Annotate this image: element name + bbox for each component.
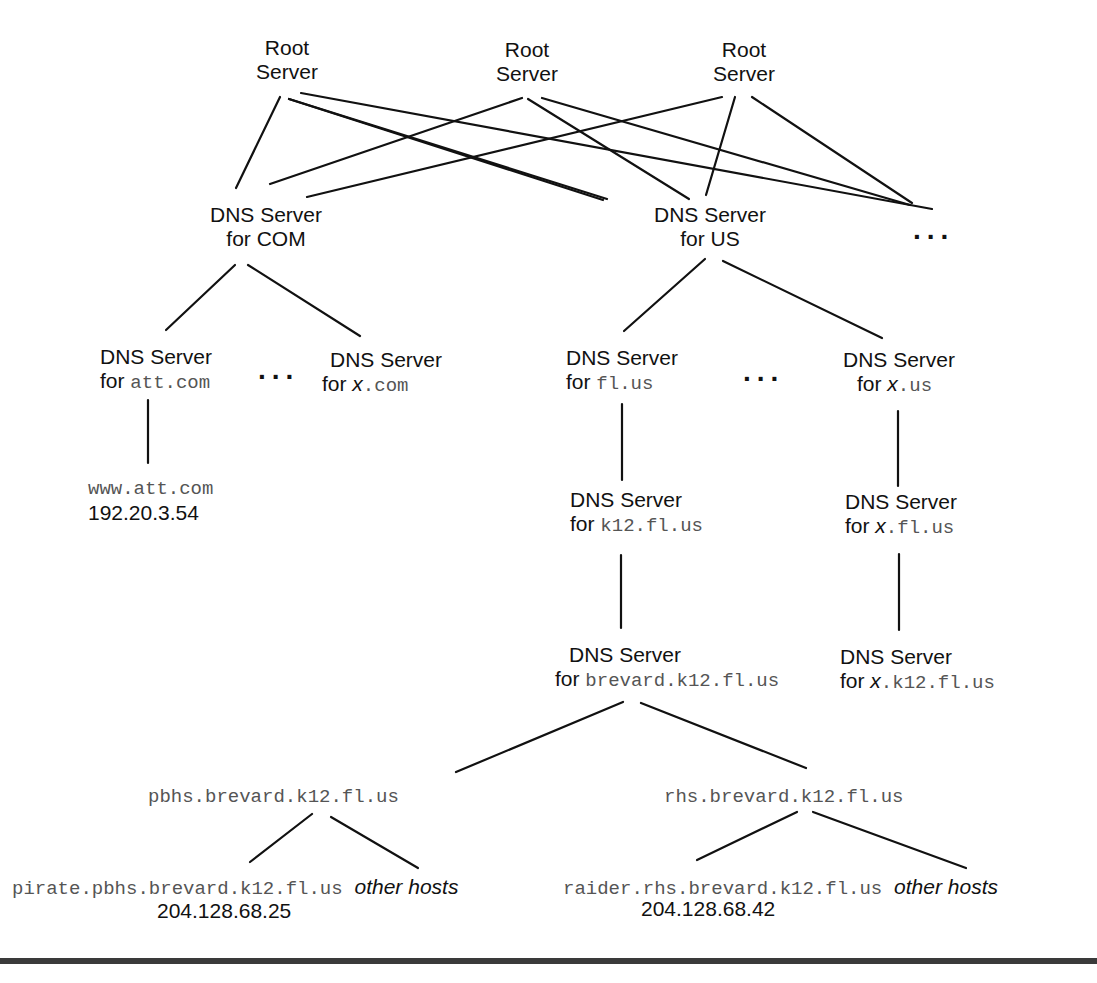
server-label: DNS Server [555,643,779,667]
variable-x: x [352,372,363,395]
for-prefix: for [322,372,352,395]
server-domain: for US [654,227,766,251]
variable-x: x [875,514,886,537]
dns-server-x-fl-us: DNS Server for x.fl.us [845,490,957,540]
domain-name: brevard.k12.fl.us [585,670,779,692]
domain-rhs: rhs.brevard.k12.fl.us [664,785,903,809]
root-server-3: Root Server [713,38,775,86]
dns-server-com: DNS Server for COM [210,203,322,251]
host-raider-ip: 204.128.68.42 [641,897,775,921]
dns-server-x-com: DNS Server for x.com [322,348,442,398]
server-label: DNS Server [840,645,995,669]
server-label: DNS Server [210,203,322,227]
host-www-att-com: www.att.com 192.20.3.54 [88,477,213,525]
domain-name: .com [363,375,409,397]
host-pirate: pirate.pbhs.brevard.k12.fl.us other host… [12,875,458,901]
bottom-divider [0,958,1097,964]
host-ip: 192.20.3.54 [88,501,213,525]
server-label: DNS Server [654,203,766,227]
host-name: pirate.pbhs.brevard.k12.fl.us [12,878,343,900]
dns-server-att-com: DNS Server for att.com [100,345,212,395]
domain-name: att.com [130,372,210,394]
for-prefix: for [845,514,875,537]
server-label: DNS Server [570,488,703,512]
root-server-label-line1: Root [713,38,775,62]
domain-name: .fl.us [886,517,954,539]
dns-server-brevard: DNS Server for brevard.k12.fl.us [555,643,779,693]
server-label: DNS Server [100,345,212,369]
root-server-2: Root Server [496,38,558,86]
dns-server-us: DNS Server for US [654,203,766,251]
root-server-1: Root Server [256,36,318,84]
other-hosts-label: other hosts [355,875,459,898]
server-label: DNS Server [843,348,955,372]
server-label: DNS Server [322,348,442,372]
variable-x: x [887,372,898,395]
dns-server-fl-us: DNS Server for fl.us [566,346,678,396]
for-prefix: for [566,370,596,393]
for-prefix: for [857,372,887,395]
root-server-label-line1: Root [256,36,318,60]
server-label: DNS Server [566,346,678,370]
for-prefix: for [100,369,130,392]
for-prefix: for [840,669,870,692]
for-prefix: for [555,667,585,690]
server-domain: for COM [210,227,322,251]
variable-x: x [870,669,881,692]
dns-server-x-k12-fl-us: DNS Server for x.k12.fl.us [840,645,995,695]
root-server-label-line2: Server [496,62,558,86]
domain-name: fl.us [596,373,653,395]
domain-name: .k12.fl.us [881,672,995,694]
domain-name: k12.fl.us [600,515,703,537]
root-server-label-line2: Server [713,62,775,86]
for-prefix: for [570,512,600,535]
root-server-label-line2: Server [256,60,318,84]
host-raider: raider.rhs.brevard.k12.fl.us other hosts [563,875,998,901]
ellipsis-more-tlds: ... [913,220,954,240]
domain-name: .us [898,375,932,397]
dns-server-x-us: DNS Server for x.us [843,348,955,398]
domain-pbhs: pbhs.brevard.k12.fl.us [148,785,399,809]
root-server-label-line1: Root [496,38,558,62]
host-pirate-ip: 204.128.68.25 [157,899,291,923]
server-label: DNS Server [845,490,957,514]
dns-server-k12-fl-us: DNS Server for k12.fl.us [570,488,703,538]
ellipsis-more-com: ... [258,360,299,380]
host-name: www.att.com [88,477,213,501]
other-hosts-label: other hosts [894,875,998,898]
ellipsis-more-us: ... [743,362,784,382]
